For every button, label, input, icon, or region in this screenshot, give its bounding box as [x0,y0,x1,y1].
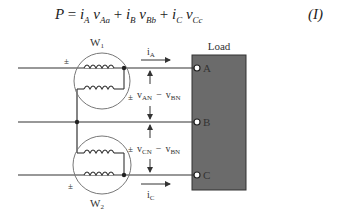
wattmeter-1-circle [74,53,130,109]
two-wattmeter-figure: P = iA vAa + iB vBb + iC vCc (I) Load [0,0,343,216]
wattmeter-1-voltage-coil-icon [84,86,114,89]
circuit-diagram: Load A B C W1 ± [0,0,343,216]
current-a-label: iA [147,46,155,59]
wattmeter-2-current-polarity: ± [68,181,73,191]
wattmeter-1: W1 ± ± [64,36,133,109]
wattmeter-1-label: W1 [90,36,104,50]
terminal-c-icon [194,172,200,178]
wattmeter-2: W2 ± ± [68,136,133,211]
terminal-c-label: C [203,169,210,181]
terminal-a-icon [194,65,200,71]
wattmeter-2-current-coil-icon [84,172,114,175]
terminal-a-label: A [203,62,211,74]
terminal-b-icon [194,119,200,125]
terminal-b-label: B [203,116,210,128]
wattmeter-2-voltage-polarity: ± [128,144,133,154]
wattmeter-1-voltage-polarity: ± [128,92,133,102]
voltage-an-bn-label: vAN−vBN [137,89,181,102]
wattmeter-2-label: W2 [90,197,104,211]
current-c-label: iC [147,189,155,202]
wattmeter-1-current-coil-icon [84,65,114,68]
wattmeter-1-junction-dot [122,66,126,70]
wattmeter-2-voltage-coil-icon [84,150,114,153]
voltage-cn-bn-label: vCN−vBN [137,143,180,156]
wattmeter-2-junction-dot [122,173,126,177]
junction-dot-b [75,120,79,124]
wattmeter-1-current-polarity: ± [64,56,69,66]
wattmeter-2-circle [73,136,131,194]
load-label: Load [208,40,231,52]
